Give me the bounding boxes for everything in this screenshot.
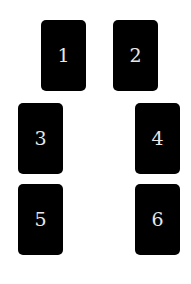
card-number: 4	[151, 129, 163, 148]
card-2[interactable]: 2	[113, 20, 158, 91]
card-4[interactable]: 4	[135, 103, 180, 174]
card-1[interactable]: 1	[41, 20, 86, 91]
card-number: 5	[34, 210, 46, 229]
card-6[interactable]: 6	[135, 184, 180, 255]
card-5[interactable]: 5	[18, 184, 63, 255]
card-number: 1	[57, 46, 69, 65]
card-number: 3	[34, 129, 46, 148]
card-number: 6	[151, 210, 163, 229]
card-number: 2	[129, 46, 141, 65]
card-3[interactable]: 3	[18, 103, 63, 174]
